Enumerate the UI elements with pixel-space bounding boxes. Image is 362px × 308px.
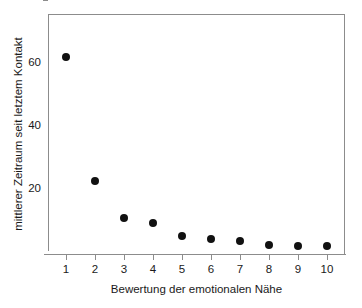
x-tick-label-8: 8 (254, 263, 284, 275)
x-tick-mark (327, 254, 328, 260)
x-tick-label-3: 3 (109, 263, 139, 275)
x-tick-label-1: 1 (51, 263, 81, 275)
x-tick-label-10: 10 (312, 263, 342, 275)
data-point (120, 214, 128, 222)
x-axis-line (44, 254, 346, 255)
scatter-plot-figure: 204060 12345678910 Bewertung der emotion… (0, 0, 362, 308)
x-tick-mark (182, 254, 183, 260)
x-tick-mark (240, 254, 241, 260)
x-tick-label-2: 2 (80, 263, 110, 275)
x-tick-mark (124, 254, 125, 260)
data-point (265, 241, 273, 249)
x-tick-label-5: 5 (167, 263, 197, 275)
x-tick-mark (298, 254, 299, 260)
plot-frame (48, 14, 345, 254)
data-point (294, 242, 302, 250)
y-axis-title: mittlerer Zeitraum seit letztem Kontakt (10, 14, 26, 254)
x-tick-label-6: 6 (196, 263, 226, 275)
x-tick-mark (269, 254, 270, 260)
x-tick-mark (211, 254, 212, 260)
y-tick-mark (43, 0, 48, 1)
x-tick-label-4: 4 (138, 263, 168, 275)
x-tick-label-7: 7 (225, 263, 255, 275)
x-tick-label-9: 9 (283, 263, 313, 275)
data-point (178, 232, 186, 240)
x-tick-mark (153, 254, 154, 260)
x-tick-mark (95, 254, 96, 260)
data-point (149, 219, 157, 227)
data-point (91, 177, 99, 185)
x-tick-mark (66, 254, 67, 260)
y-axis-line (48, 14, 49, 251)
x-axis-title: Bewertung der emotionalen Nähe (48, 283, 345, 296)
